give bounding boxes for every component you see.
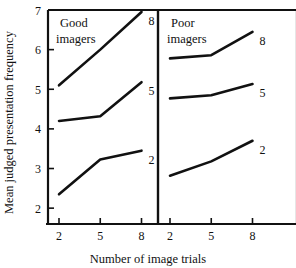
- y-tick-label: 4: [35, 122, 41, 136]
- series-end-label: 2: [260, 143, 266, 157]
- panel-title-line1: Good: [60, 16, 89, 30]
- x-tick-label: 5: [97, 229, 103, 243]
- y-tick-label: 7: [35, 4, 41, 18]
- y-axis-title: Mean judged presentation frequency: [2, 30, 16, 214]
- x-tick-label: 2: [167, 229, 173, 243]
- x-tick-label: 5: [208, 229, 214, 243]
- y-tick-label: 5: [35, 83, 41, 97]
- panel-title-line2: imagers: [167, 32, 207, 46]
- series-end-label: 2: [149, 153, 155, 167]
- x-tick-label: 8: [250, 229, 256, 243]
- x-tick-label: 2: [56, 229, 62, 243]
- series-end-label: 8: [149, 14, 155, 28]
- y-tick-label: 2: [35, 202, 41, 216]
- y-axis-ticks: 234567: [35, 4, 54, 216]
- panel-title-line2: imagers: [56, 32, 96, 46]
- series-end-label: 5: [260, 86, 266, 100]
- series-line: [170, 84, 253, 98]
- series-end-label: 5: [149, 84, 155, 98]
- x-axis-title: Number of image trials: [90, 252, 206, 266]
- panel-title-line1: Poor: [171, 16, 195, 30]
- x-axis-ticks: 258258: [56, 218, 256, 243]
- series-line: [59, 151, 142, 195]
- x-tick-label: 8: [139, 229, 145, 243]
- y-tick-label: 6: [35, 43, 41, 57]
- line-chart: Mean judged presentation frequency Numbe…: [0, 0, 296, 268]
- figure-container: Mean judged presentation frequency Numbe…: [0, 0, 296, 268]
- series-end-label: 8: [260, 34, 266, 48]
- series-line: [170, 141, 253, 176]
- y-tick-label: 3: [35, 162, 41, 176]
- series-line: [59, 82, 142, 121]
